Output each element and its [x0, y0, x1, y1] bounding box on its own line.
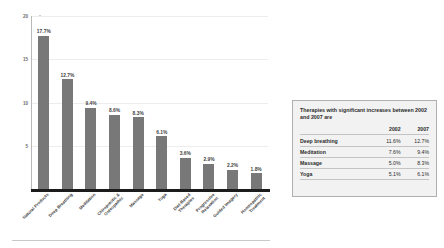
bar-value-label: 12.7%	[60, 73, 74, 78]
bar	[133, 117, 144, 189]
y-tick-label: 15	[10, 57, 28, 62]
bar-value-label: 1.8%	[251, 167, 262, 172]
bar-value-label: 9.4%	[85, 101, 96, 106]
table-header-row: 20022007	[300, 126, 429, 135]
bar-slot: 8.6%	[103, 16, 127, 189]
bar	[156, 136, 167, 189]
bar	[109, 115, 120, 189]
cell-value-2007: 8.3%	[401, 157, 429, 168]
col-header-therapy	[300, 126, 373, 135]
bar	[62, 79, 73, 189]
x-axis-tick-labels: Natural ProductsDeep BreathingMeditation…	[31, 192, 268, 246]
bar-value-label: 8.3%	[133, 111, 144, 116]
cell-value-2002: 7.6%	[373, 146, 401, 157]
bar	[38, 36, 49, 189]
col-header-year: 2002	[373, 126, 401, 135]
bar-value-label: 17.7%	[37, 29, 51, 34]
bar-value-label: 6.1%	[156, 130, 167, 135]
bottom-divider	[12, 240, 270, 241]
bar	[251, 173, 262, 189]
bar-value-label: 2.2%	[227, 163, 238, 168]
cell-value-2007: 12.7%	[401, 135, 429, 146]
plot-area: 17.7%12.7%9.4%8.6%8.3%6.1%3.6%2.9%2.2%1.…	[31, 16, 268, 189]
table-row: Massage5.0%8.3%	[300, 157, 429, 168]
cell-value-2002: 11.6%	[373, 135, 401, 146]
cell-therapy-name: Meditation	[300, 146, 373, 157]
table-head: 20022007	[300, 126, 429, 135]
bar-slot: 6.1%	[150, 16, 174, 189]
bar-value-label: 2.9%	[203, 157, 214, 162]
y-tick-label: 20	[10, 14, 28, 19]
table-row: Meditation7.6%9.4%	[300, 146, 429, 157]
table-row: Yoga5.1%6.1%	[300, 168, 429, 179]
col-header-year: 2007	[401, 126, 429, 135]
y-tick-label: 5	[10, 143, 28, 148]
table-row: Deep breathing11.6%12.7%	[300, 135, 429, 146]
bar	[180, 158, 191, 189]
bar-value-label: 3.6%	[180, 151, 191, 156]
cell-value-2002: 5.0%	[373, 157, 401, 168]
side-summary-table: Therapies with significant increases bet…	[292, 100, 437, 197]
table-caption: Therapies with significant increases bet…	[300, 107, 429, 121]
cell-therapy-name: Massage	[300, 157, 373, 168]
y-tick-label: 10	[10, 100, 28, 105]
bar-slot: 2.9%	[197, 16, 221, 189]
x-tick-label: Deep Breathing	[31, 192, 73, 234]
bar-slot: 2.2%	[221, 16, 245, 189]
bar-slot: 3.6%	[174, 16, 198, 189]
table-body: Deep breathing11.6%12.7%Meditation7.6%9.…	[300, 135, 429, 180]
cell-value-2002: 5.1%	[373, 168, 401, 179]
cell-value-2007: 9.4%	[401, 146, 429, 157]
bar-chart-figure: Percentage 5101520 17.7%12.7%9.4%8.6%8.3…	[0, 0, 444, 248]
bar-slot: 1.8%	[244, 16, 268, 189]
bar-slot: 8.3%	[126, 16, 150, 189]
bar-slot: 12.7%	[56, 16, 80, 189]
cell-therapy-name: Deep breathing	[300, 135, 373, 146]
bar	[203, 164, 214, 189]
bar	[85, 108, 96, 189]
bar-value-label: 8.6%	[109, 108, 120, 113]
cell-value-2007: 6.1%	[401, 168, 429, 179]
increases-table: 20022007 Deep breathing11.6%12.7%Meditat…	[300, 126, 429, 180]
cell-therapy-name: Yoga	[300, 168, 373, 179]
bar-slot: 17.7%	[32, 16, 56, 189]
bar	[227, 170, 238, 189]
bar-series: 17.7%12.7%9.4%8.6%8.3%6.1%3.6%2.9%2.2%1.…	[32, 16, 268, 189]
bar-slot: 9.4%	[79, 16, 103, 189]
